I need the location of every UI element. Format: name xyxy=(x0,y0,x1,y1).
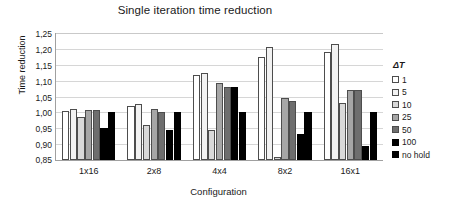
bar xyxy=(347,90,354,160)
chart-title: Single iteration time reduction xyxy=(0,4,390,16)
bar xyxy=(93,110,100,160)
x-axis-tick-label: 1x16 xyxy=(56,166,121,176)
bar-groups: 1x162x84x48x216x1 xyxy=(56,33,383,160)
chart-container: Single iteration time reduction Time red… xyxy=(0,0,450,210)
legend-swatch-icon xyxy=(392,114,399,121)
bar xyxy=(77,117,84,160)
y-axis-tick-label: 1,10 xyxy=(35,77,52,87)
bar xyxy=(143,125,150,160)
legend-item[interactable]: 1 xyxy=(392,74,450,87)
bar-group: 1x16 xyxy=(56,33,121,160)
bar xyxy=(297,134,304,160)
legend-item[interactable]: 100 xyxy=(392,136,450,149)
bar xyxy=(70,109,77,160)
legend-item[interactable]: 50 xyxy=(392,124,450,137)
bar xyxy=(304,112,311,160)
legend-item[interactable]: 25 xyxy=(392,111,450,124)
bar xyxy=(258,57,265,161)
x-axis-tick-label: 16x1 xyxy=(318,166,383,176)
bar xyxy=(231,87,238,160)
bar xyxy=(151,109,158,160)
y-axis-tick-label: 0,90 xyxy=(35,140,52,150)
bar xyxy=(62,111,69,160)
bar-group: 8x2 xyxy=(252,33,317,160)
bar xyxy=(281,98,288,160)
legend-item[interactable]: no hold xyxy=(392,149,450,162)
legend-swatch-icon xyxy=(392,76,399,83)
y-axis-tick-label: 1,20 xyxy=(35,45,52,55)
bar xyxy=(166,130,173,160)
y-axis-tick-label: 1,00 xyxy=(35,108,52,118)
bar xyxy=(289,101,296,160)
legend-swatch-icon xyxy=(392,139,399,146)
y-axis-tick-label: 1,25 xyxy=(35,29,52,39)
bar xyxy=(339,103,346,160)
bar xyxy=(127,106,134,160)
bar xyxy=(135,104,142,160)
legend-item-label: 1 xyxy=(402,76,407,85)
bar xyxy=(100,128,107,160)
legend-item-label: 25 xyxy=(402,113,411,122)
bar xyxy=(158,112,165,160)
x-axis-tick-label: 2x8 xyxy=(121,166,186,176)
legend-swatch-icon xyxy=(392,101,399,108)
legend-items: 15102550100no hold xyxy=(392,74,450,162)
legend-item-label: 5 xyxy=(402,88,407,97)
bar xyxy=(208,130,215,160)
legend-swatch-icon xyxy=(392,89,399,96)
legend: ΔT 15102550100no hold xyxy=(392,60,450,161)
legend-swatch-icon xyxy=(392,126,399,133)
legend-item-label: 10 xyxy=(402,101,411,110)
x-axis-title: Configuration xyxy=(55,186,382,197)
bar xyxy=(201,73,208,160)
bar xyxy=(108,112,115,160)
legend-item-label: no hold xyxy=(402,151,430,160)
plot-area: 0,850,900,951,001,051,101,151,201,25 1x1… xyxy=(55,33,383,161)
bar xyxy=(239,112,246,160)
x-axis-tick-label: 8x2 xyxy=(252,166,317,176)
bar xyxy=(354,90,361,160)
bar xyxy=(274,157,281,160)
legend-item-label: 50 xyxy=(402,126,411,135)
bar xyxy=(224,87,231,160)
bar xyxy=(174,112,181,160)
bar xyxy=(216,83,223,160)
legend-item-label: 100 xyxy=(402,138,416,147)
bar xyxy=(85,110,92,160)
bar-group: 2x8 xyxy=(121,33,186,160)
legend-title: ΔT xyxy=(392,60,450,70)
bar xyxy=(193,75,200,160)
bar-group: 4x4 xyxy=(187,33,252,160)
bar xyxy=(370,112,377,160)
y-axis-tick-label: 1,15 xyxy=(35,61,52,71)
bar xyxy=(266,47,273,160)
y-axis-tick-label: 0,95 xyxy=(35,124,52,134)
x-axis-tick-label: 4x4 xyxy=(187,166,252,176)
y-axis-tick-label: 0,85 xyxy=(35,155,52,165)
legend-swatch-icon xyxy=(392,151,399,158)
bar-group: 16x1 xyxy=(318,33,383,160)
legend-item[interactable]: 10 xyxy=(392,99,450,112)
legend-item[interactable]: 5 xyxy=(392,86,450,99)
bar xyxy=(362,146,369,160)
y-axis-title: Time reduction xyxy=(17,5,27,125)
bar xyxy=(324,52,331,160)
y-axis-tick-label: 1,05 xyxy=(35,93,52,103)
bar xyxy=(331,44,338,160)
